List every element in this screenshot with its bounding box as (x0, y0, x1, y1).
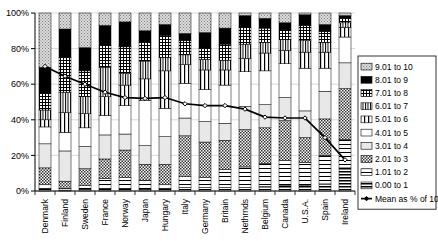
bar-segment[interactable] (279, 50, 291, 63)
bar-segment[interactable] (79, 97, 91, 114)
bar-column[interactable] (219, 13, 231, 191)
bar-segment[interactable] (199, 49, 211, 60)
bar-segment[interactable] (39, 93, 51, 110)
bar-segment[interactable] (119, 22, 131, 47)
bar-segment[interactable] (279, 161, 291, 186)
bar-segment[interactable] (239, 187, 251, 191)
bar-segment[interactable] (299, 52, 311, 68)
bar-segment[interactable] (239, 16, 251, 28)
bar-segment[interactable] (299, 68, 311, 111)
bar-segment[interactable] (179, 118, 191, 136)
bar-segment[interactable] (279, 186, 291, 191)
bar-segment[interactable] (179, 33, 191, 40)
bar-segment[interactable] (179, 136, 191, 177)
bar-segment[interactable] (79, 13, 91, 48)
bar-segment[interactable] (39, 185, 51, 189)
bar-segment[interactable] (199, 142, 211, 178)
bar-segment[interactable] (219, 28, 231, 44)
legend-item[interactable]: 0.00 to 1 (361, 180, 408, 190)
bar-segment[interactable] (159, 13, 171, 25)
bar-column[interactable] (39, 13, 51, 191)
bar-segment[interactable] (99, 25, 111, 45)
bar-segment[interactable] (39, 188, 51, 191)
bar-segment[interactable] (259, 18, 271, 28)
bar-segment[interactable] (199, 13, 211, 33)
bar-segment[interactable] (59, 92, 71, 112)
legend-item[interactable]: 9.01 to 10 (361, 62, 413, 72)
bar-column[interactable] (319, 13, 331, 191)
bar-segment[interactable] (99, 115, 111, 135)
bar-segment[interactable] (339, 168, 351, 191)
bar-segment[interactable] (39, 120, 51, 127)
bar-segment[interactable] (279, 23, 291, 30)
bar-segment[interactable] (179, 65, 191, 84)
bar-segment[interactable] (99, 13, 111, 25)
bar-segment[interactable] (139, 13, 151, 31)
bar-column[interactable] (299, 13, 311, 191)
bar-segment[interactable] (199, 33, 211, 49)
bar-segment[interactable] (339, 18, 351, 22)
bar-segment[interactable] (239, 58, 251, 71)
bar-segment[interactable] (79, 186, 91, 190)
bar-column[interactable] (139, 13, 151, 191)
bar-segment[interactable] (179, 177, 191, 188)
bar-segment[interactable] (239, 13, 251, 16)
bar-segment[interactable] (239, 130, 251, 167)
bar-segment[interactable] (219, 140, 231, 169)
bar-column[interactable] (79, 13, 91, 191)
bar-segment[interactable] (99, 45, 111, 67)
bar-segment[interactable] (239, 44, 251, 58)
bar-column[interactable] (59, 13, 71, 191)
bar-segment[interactable] (299, 138, 311, 163)
bar-column[interactable] (259, 13, 271, 191)
bar-segment[interactable] (199, 178, 211, 188)
bar-segment[interactable] (99, 135, 111, 159)
bar-segment[interactable] (259, 53, 271, 71)
bar-segment[interactable] (199, 59, 211, 70)
bar-segment[interactable] (239, 27, 251, 44)
bar-segment[interactable] (339, 37, 351, 63)
legend-item[interactable]: 1.01 to 2 (361, 167, 408, 177)
bar-segment[interactable] (139, 180, 151, 189)
bar-segment[interactable] (59, 132, 71, 151)
bar-segment[interactable] (139, 31, 151, 43)
bar-segment[interactable] (339, 89, 351, 140)
bar-segment[interactable] (319, 52, 331, 68)
bar-segment[interactable] (179, 83, 191, 118)
bar-segment[interactable] (39, 13, 51, 67)
bar-segment[interactable] (59, 188, 71, 190)
bar-segment[interactable] (159, 164, 171, 184)
bar-column[interactable] (99, 13, 111, 191)
bar-segment[interactable] (159, 188, 171, 191)
bar-segment[interactable] (39, 67, 51, 93)
bar-segment[interactable] (119, 134, 131, 150)
bar-segment[interactable] (279, 121, 291, 161)
bar-segment[interactable] (219, 187, 231, 191)
bar-segment[interactable] (259, 71, 271, 105)
bar-segment[interactable] (219, 123, 231, 140)
bar-segment[interactable] (279, 64, 291, 98)
bar-segment[interactable] (219, 13, 231, 28)
bar-segment[interactable] (239, 167, 251, 187)
bar-segment[interactable] (299, 15, 311, 26)
bar-segment[interactable] (79, 147, 91, 169)
bar-segment[interactable] (99, 179, 111, 189)
bar-segment[interactable] (59, 29, 71, 57)
bar-segment[interactable] (319, 184, 331, 191)
bar-segment[interactable] (139, 189, 151, 191)
bar-segment[interactable] (139, 146, 151, 165)
bar-segment[interactable] (259, 128, 271, 164)
bar-segment[interactable] (299, 41, 311, 53)
bar-column[interactable] (279, 13, 291, 191)
bar-segment[interactable] (199, 122, 211, 142)
legend-item[interactable]: 2.01 to 3 (361, 154, 408, 164)
bar-segment[interactable] (179, 55, 191, 65)
bar-segment[interactable] (299, 111, 311, 138)
bar-segment[interactable] (219, 44, 231, 60)
bar-segment[interactable] (319, 155, 331, 183)
bar-segment[interactable] (119, 150, 131, 178)
bar-segment[interactable] (119, 13, 131, 22)
bar-segment[interactable] (299, 25, 311, 40)
bar-segment[interactable] (279, 40, 291, 51)
bar-column[interactable] (339, 13, 351, 191)
